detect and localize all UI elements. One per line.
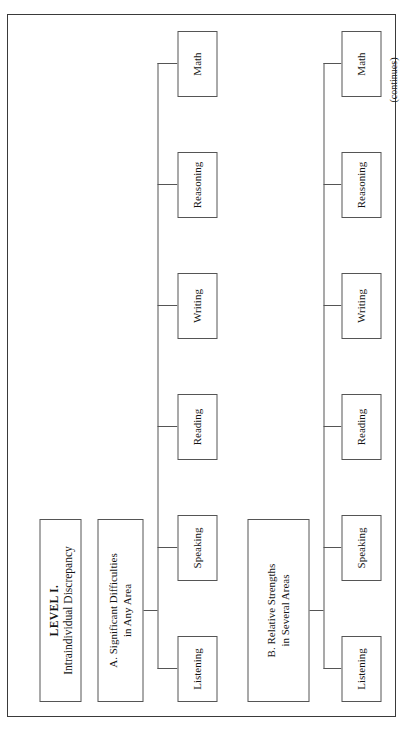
leaf-b-reasoning-label: Reasoning	[354, 161, 368, 207]
connector-a-drop-3	[157, 425, 177, 426]
leaf-a-writing: Writing	[177, 273, 217, 339]
connector-a-drop-6	[157, 62, 177, 63]
book-page: LEVEL I. Intraindividual Discrepancy A. …	[0, 0, 416, 734]
leaf-a-math: Math	[177, 31, 217, 97]
leaf-b-listening-label: Listening	[354, 648, 368, 690]
connector-b-drop-6	[323, 62, 341, 63]
root-subtitle: Intraindividual Discrepancy	[60, 546, 74, 675]
category-a-label-line1: A. Significant Difficulties	[106, 553, 120, 667]
connector-b-drop-2	[323, 546, 341, 547]
leaf-a-writing-label: Writing	[190, 289, 204, 323]
connector-b-drop-3	[323, 425, 341, 426]
root-title: LEVEL I.	[46, 584, 60, 636]
leaf-a-reasoning: Reasoning	[177, 152, 217, 218]
category-node-b: B. Relative Strengths in Several Areas	[247, 519, 309, 702]
connector-a-drop-2	[157, 546, 177, 547]
leaf-b-speaking-label: Speaking	[354, 527, 368, 568]
connector-b-spine	[323, 63, 324, 669]
category-b-label-line2: in Several Areas	[278, 563, 292, 657]
connector-a-stem	[143, 609, 157, 610]
leaf-b-reasoning: Reasoning	[341, 152, 381, 218]
leaf-b-speaking: Speaking	[341, 515, 381, 581]
leaf-a-listening: Listening	[177, 636, 217, 702]
figure-frame: LEVEL I. Intraindividual Discrepancy A. …	[7, 14, 396, 717]
category-b-label-line1: B. Relative Strengths	[264, 563, 278, 657]
leaf-b-math-label: Math	[354, 52, 368, 75]
connector-a-spine	[157, 63, 158, 669]
leaf-a-reading: Reading	[177, 394, 217, 460]
leaf-b-writing: Writing	[341, 273, 381, 339]
connector-a-drop-1	[157, 667, 177, 668]
connector-a-drop-4	[157, 304, 177, 305]
leaf-a-reasoning-label: Reasoning	[190, 161, 204, 207]
leaf-a-reading-label: Reading	[190, 408, 204, 445]
connector-b-drop-4	[323, 304, 341, 305]
continues-note-wrap: (continues)	[383, 20, 403, 140]
leaf-b-math: Math	[341, 31, 381, 97]
connector-b-drop-1	[323, 667, 341, 668]
category-node-a: A. Significant Difficulties in Any Area	[97, 519, 143, 702]
root-node-level-1: LEVEL I. Intraindividual Discrepancy	[39, 519, 81, 702]
leaf-b-listening: Listening	[341, 636, 381, 702]
leaf-a-speaking-label: Speaking	[190, 527, 204, 568]
diagram-stage: LEVEL I. Intraindividual Discrepancy A. …	[9, 16, 394, 716]
category-a-label-line2: in Any Area	[120, 553, 134, 667]
leaf-a-listening-label: Listening	[190, 648, 204, 690]
continues-note: (continues)	[388, 58, 399, 103]
connector-b-drop-5	[323, 183, 341, 184]
leaf-b-reading-label: Reading	[354, 408, 368, 445]
leaf-b-reading: Reading	[341, 394, 381, 460]
leaf-a-speaking: Speaking	[177, 515, 217, 581]
connector-a-drop-5	[157, 183, 177, 184]
leaf-a-math-label: Math	[190, 52, 204, 75]
connector-b-stem	[309, 609, 323, 610]
leaf-b-writing-label: Writing	[354, 289, 368, 323]
